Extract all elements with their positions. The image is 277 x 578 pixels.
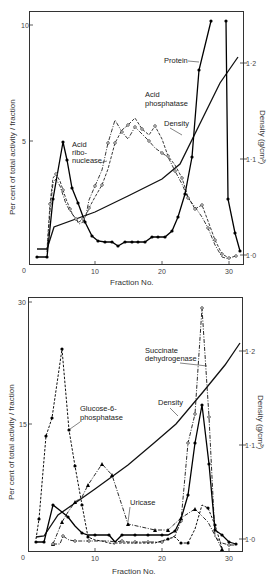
- top-y2tick-1-1: 1·1: [246, 156, 256, 163]
- bottom-y2tick-1-1: 1·1: [245, 442, 255, 449]
- bottom-ytick-15: 15: [19, 421, 27, 428]
- bottom-xtick-10: 10: [91, 555, 99, 562]
- top-annotation-density: Density: [164, 119, 189, 128]
- bottom-annotation-succinate-2: dehydrogenase: [145, 354, 197, 363]
- top-chart: 10 5 0 10 20 30 1·2 1·1 1·0 Fraction No.…: [0, 0, 277, 290]
- bottom-annotation-glucose-6-phosphatase-2: phosphatase: [80, 413, 123, 422]
- bottom-y2tick-1-0: 1·0: [245, 536, 255, 543]
- top-plot-frame: [30, 12, 244, 265]
- bottom-solid-filled-line: [36, 405, 236, 544]
- bottom-xtick-0: 0: [21, 554, 25, 561]
- top-ytick-10: 10: [21, 22, 29, 29]
- top-annotation-acid-phosphatase-2: phosphatase: [145, 99, 188, 108]
- bottom-solid-filled-markers: [34, 403, 237, 545]
- bottom-annotation-glucose-6-phosphatase-1: Glucose-6-: [80, 404, 117, 413]
- top-acid-phosphatase-line: [47, 118, 236, 258]
- bottom-annotation-density: Density: [158, 398, 183, 407]
- top-xtick-20: 20: [158, 268, 166, 275]
- top-y2-axis-label: Density (g/cm³): [258, 110, 267, 165]
- bottom-dashed-filled-late-line: [115, 505, 222, 548]
- top-annotation-acid-ribonuclease-3: nuclease: [72, 156, 102, 165]
- bottom-y-axis-label: Per cent of total activity / fraction: [7, 384, 16, 500]
- top-y-axis-label: Per cent of total activity / fraction: [8, 99, 17, 215]
- top-ytick-5: 5: [22, 138, 26, 145]
- bottom-y2-axis-label: Density (g/cm³): [256, 395, 265, 450]
- bottom-glucose-6-phosphatase-line: [36, 349, 115, 544]
- bottom-xtick-30: 30: [225, 555, 233, 562]
- top-y2tick-1-2: 1·2: [246, 60, 256, 67]
- top-x-axis-label: Fraction No.: [110, 278, 154, 287]
- top-xtick-0: 0: [22, 267, 26, 274]
- top-xtick-10: 10: [91, 268, 99, 275]
- bottom-x-axis-label: Fraction No.: [112, 567, 156, 576]
- top-annotation-acid-phosphatase-1: Acid: [145, 90, 160, 99]
- top-xtick-30: 30: [225, 268, 233, 275]
- top-y2tick-1-0: 1·0: [246, 252, 256, 259]
- bottom-annotation-uricase: Uricase: [130, 498, 155, 507]
- bottom-chart: 30 15 0 10 20 30 1·2 1·1 1·0 Fraction No…: [0, 290, 277, 578]
- top-annotation-protein: Protein: [164, 56, 188, 65]
- bottom-dashed-filled-late-markers: [166, 506, 216, 544]
- bottom-ytick-30: 30: [18, 299, 26, 306]
- bottom-y2tick-1-2: 1·2: [245, 348, 255, 355]
- top-protein-line-2: [226, 21, 240, 251]
- bottom-xtick-20: 20: [158, 555, 166, 562]
- bottom-sdh-markers: [52, 307, 231, 547]
